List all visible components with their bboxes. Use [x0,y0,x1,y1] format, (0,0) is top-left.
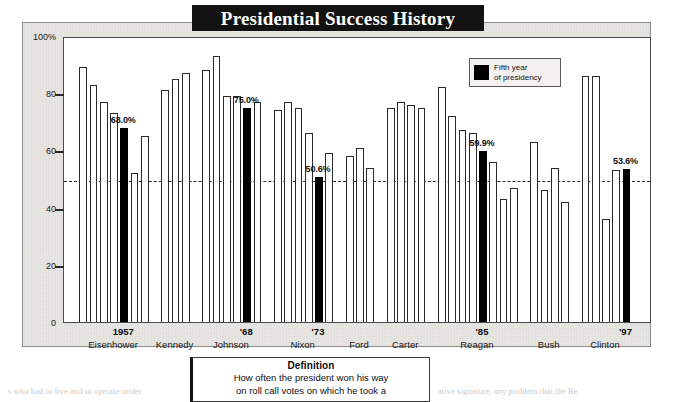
y-tick-mark [55,151,64,153]
x-axis-president-label: Bush [538,339,560,350]
x-axis: 1957EisenhowerKennedy'68Johnson'73NixonF… [0,0,673,402]
x-axis-president-label: Eisenhower [88,339,138,350]
x-axis-president-label: Nixon [290,339,314,350]
x-axis-president-label: Ford [349,339,369,350]
definition-line1: How often the president won his way [199,372,423,385]
definition-heading: Definition [193,358,429,371]
bar-value-label: 75.0% [234,95,259,105]
x-axis-president-label: Johnson [213,339,249,350]
legend-label: Fifth year of presidency [494,63,542,81]
legend-label-line2: of presidency [494,73,542,82]
x-axis-president-label: Carter [392,339,418,350]
x-axis-president-label: Clinton [590,339,620,350]
x-axis-year-label: '73 [312,326,325,337]
y-tick-mark [55,209,64,211]
definition-callout: Definition How often the president won h… [190,357,430,402]
legend: Fifth year of presidency [469,58,561,87]
x-axis-president-label: Reagan [460,339,493,350]
x-axis-president-label: Kennedy [156,339,194,350]
chart-page: s who had to live and to operate under a… [0,0,673,402]
legend-swatch-fifth-year [474,65,489,80]
bar-value-label: 53.6% [613,156,638,166]
y-tick-mark [55,266,64,268]
legend-label-line1: Fifth year [494,63,542,72]
definition-body: How often the president won his way on r… [193,371,429,398]
x-axis-year-label: 1957 [113,326,134,337]
x-axis-year-label: '97 [619,326,632,337]
bar-value-label: 59.9% [470,138,495,148]
bar-value-label: 50.6% [306,164,331,174]
y-tick-mark [55,94,64,96]
x-axis-year-label: '85 [476,326,489,337]
x-axis-year-label: '68 [240,326,253,337]
definition-line2: on roll call votes on which he took a [199,385,423,398]
bar-value-label: 68.0% [111,115,136,125]
